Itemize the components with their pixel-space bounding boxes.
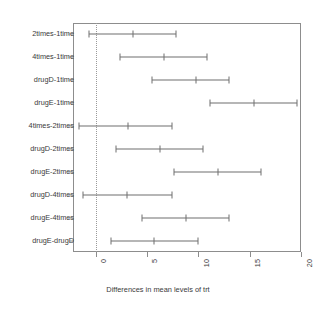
upper-bound-cap [296, 100, 297, 107]
lower-bound-cap [120, 54, 121, 61]
upper-bound-cap [229, 77, 230, 84]
x-axis-title: Differences in mean levels of trt [0, 285, 316, 294]
mean-difference-marker [154, 237, 155, 244]
lower-bound-cap [116, 145, 117, 152]
confidence-interval-line [111, 240, 198, 241]
upper-bound-cap [260, 168, 261, 175]
x-axis-tick [301, 252, 302, 257]
lower-bound-cap [152, 77, 153, 84]
y-axis-tick [68, 34, 73, 35]
x-axis-tick-label: 10 [202, 259, 211, 267]
upper-bound-cap [171, 191, 172, 198]
confidence-interval-line [152, 80, 229, 81]
mean-difference-marker [196, 77, 197, 84]
x-axis-tick-label: 20 [305, 259, 314, 267]
mean-difference-marker [160, 145, 161, 152]
x-axis-tick [250, 252, 251, 257]
upper-bound-cap [206, 54, 207, 61]
mean-difference-marker [164, 54, 165, 61]
y-axis-tick [68, 240, 73, 241]
lower-bound-cap [111, 237, 112, 244]
x-axis-tick-label: 5 [150, 259, 159, 263]
lower-bound-cap [173, 168, 174, 175]
x-axis-tick [147, 252, 148, 257]
y-axis-tick [68, 126, 73, 127]
lower-bound-cap [83, 191, 84, 198]
mean-difference-marker [127, 191, 128, 198]
x-axis-tick [96, 252, 97, 257]
mean-difference-marker [128, 123, 129, 130]
y-axis-tick [68, 171, 73, 172]
y-axis-tick [68, 194, 73, 195]
x-axis-tick [198, 252, 199, 257]
x-axis-tick-label: 15 [253, 259, 262, 267]
mean-difference-marker [185, 214, 186, 221]
upper-bound-cap [203, 145, 204, 152]
y-axis-tick [68, 148, 73, 149]
lower-bound-cap [141, 214, 142, 221]
mean-difference-marker [253, 100, 254, 107]
y-axis-tick [68, 57, 73, 58]
y-axis-tick [68, 80, 73, 81]
confidence-interval-line [79, 126, 171, 127]
plot-title [0, 0, 316, 6]
zero-reference-line [96, 23, 97, 252]
lower-bound-cap [89, 31, 90, 38]
tukey-hsd-interval-plot: 2times-1time4times-1timedrugD-1timedrugE… [0, 0, 316, 309]
mean-difference-marker [132, 31, 133, 38]
lower-bound-cap [209, 100, 210, 107]
y-axis-tick [68, 103, 73, 104]
x-axis-tick-label: 0 [99, 259, 108, 263]
upper-bound-cap [229, 214, 230, 221]
upper-bound-cap [198, 237, 199, 244]
upper-bound-cap [171, 123, 172, 130]
upper-bound-cap [175, 31, 176, 38]
mean-difference-marker [217, 168, 218, 175]
y-axis-tick [68, 217, 73, 218]
lower-bound-cap [79, 123, 80, 130]
